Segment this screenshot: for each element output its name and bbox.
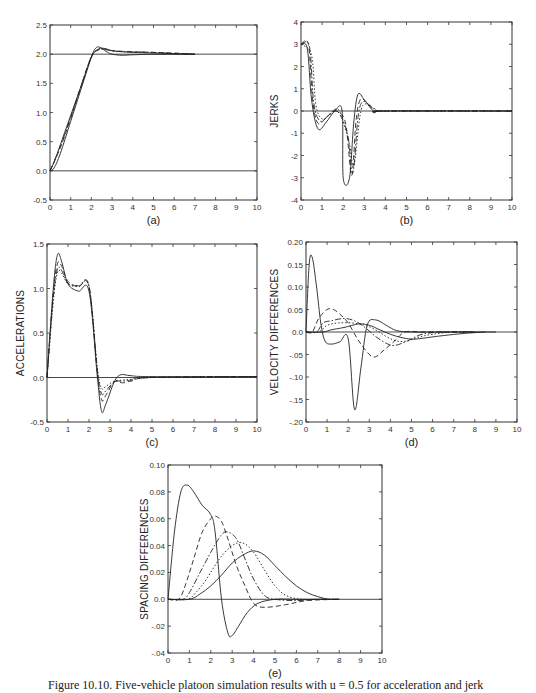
series-line-diff-2 xyxy=(306,309,475,357)
y-tick-label: 2.5 xyxy=(36,21,48,30)
y-axis-label: ACCELERATIONS xyxy=(15,290,26,376)
x-tick-label: 3 xyxy=(108,425,113,434)
y-axis-label: VELOCITY DIFFERENCES xyxy=(269,269,280,396)
x-tick-label: 10 xyxy=(253,425,262,434)
x-tick-label: 2 xyxy=(89,203,94,212)
y-tick-label: 0.05 xyxy=(287,306,303,315)
chart-panel-c: 012345678910-0.50.00.51.01.5ACCELERATION… xyxy=(15,240,262,448)
plot-frame xyxy=(168,465,382,653)
y-tick-label: 1.5 xyxy=(33,240,45,249)
y-tick-label: -.15 xyxy=(289,396,303,405)
x-tick-label: 7 xyxy=(451,425,456,434)
x-tick-label: 6 xyxy=(294,656,299,665)
x-tick-label: 3 xyxy=(362,203,367,212)
series-line-lead xyxy=(301,43,512,185)
y-tick-label: 0.5 xyxy=(36,138,48,147)
chart-panel-b: 012345678910-4-3-2-101234JERKS(b) xyxy=(269,18,517,226)
y-tick-label: 2.0 xyxy=(36,50,48,59)
x-tick-label: 10 xyxy=(253,203,262,212)
chart-panel-a: 012345678910-0.50.00.51.01.52.02.5(a) xyxy=(33,21,262,226)
x-tick-label: 9 xyxy=(234,425,239,434)
x-tick-label: 8 xyxy=(213,425,218,434)
x-tick-label: 8 xyxy=(473,425,478,434)
series-line-follower-2 xyxy=(301,42,512,174)
y-tick-label: 0.10 xyxy=(149,461,165,470)
y-tick-label: 0.20 xyxy=(287,238,303,247)
x-tick-label: 7 xyxy=(193,203,198,212)
series-line-follower-1 xyxy=(301,40,512,175)
x-tick-label: 1 xyxy=(68,203,73,212)
series-line-follower-3 xyxy=(50,49,195,171)
y-tick-label: 4 xyxy=(294,18,299,27)
series-line-diff-5 xyxy=(306,324,485,339)
y-tick-label: 0.10 xyxy=(287,283,303,292)
x-tick-label: 4 xyxy=(129,425,134,434)
x-tick-label: 0 xyxy=(166,656,171,665)
x-tick-label: 7 xyxy=(192,425,197,434)
x-tick-label: 5 xyxy=(273,656,278,665)
series-line-follower-2 xyxy=(47,267,257,395)
plot-frame xyxy=(47,244,257,422)
series-line-diff-3 xyxy=(168,532,339,601)
panel-label: (b) xyxy=(400,214,413,226)
x-tick-label: 5 xyxy=(150,425,155,434)
x-tick-label: 6 xyxy=(425,203,430,212)
x-tick-label: 2 xyxy=(87,425,92,434)
x-tick-label: 6 xyxy=(172,203,177,212)
series-line-diff-1 xyxy=(168,485,339,637)
x-tick-label: 10 xyxy=(513,425,522,434)
y-tick-label: -3 xyxy=(291,174,299,183)
x-tick-label: 2 xyxy=(341,203,346,212)
x-tick-label: 4 xyxy=(251,656,256,665)
y-tick-label: 0.0 xyxy=(292,328,304,337)
x-tick-label: 4 xyxy=(131,203,136,212)
series-line-lead xyxy=(50,47,195,171)
y-tick-label: 1 xyxy=(294,85,299,94)
x-tick-label: 3 xyxy=(230,656,235,665)
y-tick-label: -1 xyxy=(291,129,299,138)
y-tick-label: 0.04 xyxy=(149,542,165,551)
x-tick-label: 4 xyxy=(388,425,393,434)
y-tick-label: 0.0 xyxy=(33,374,45,383)
x-tick-label: 8 xyxy=(337,656,342,665)
x-tick-label: 10 xyxy=(508,203,517,212)
x-tick-label: 8 xyxy=(213,203,218,212)
y-tick-label: 0.5 xyxy=(33,329,45,338)
y-tick-label: -.04 xyxy=(151,649,165,658)
x-tick-label: 2 xyxy=(346,425,351,434)
y-tick-label: 3 xyxy=(294,40,299,49)
series-line-diff-2 xyxy=(168,516,339,607)
x-tick-label: 9 xyxy=(358,656,363,665)
figure-caption: Figure 10.10. Five-vehicle platoon simul… xyxy=(48,678,483,693)
series-line-follower-3 xyxy=(301,44,512,167)
x-tick-label: 3 xyxy=(110,203,115,212)
y-tick-label: 0.0 xyxy=(154,595,166,604)
x-tick-label: 0 xyxy=(45,425,50,434)
y-tick-label: 0.08 xyxy=(149,488,165,497)
y-tick-label: 0.02 xyxy=(149,568,165,577)
series-line-diff-5 xyxy=(168,551,339,600)
series-line-follower-3 xyxy=(47,270,257,389)
x-tick-label: 9 xyxy=(234,203,239,212)
x-tick-label: 1 xyxy=(187,656,192,665)
y-tick-label: -0.5 xyxy=(30,418,44,427)
y-tick-label: -.10 xyxy=(289,373,303,382)
x-tick-label: 5 xyxy=(151,203,156,212)
y-axis-label: JERKS xyxy=(269,94,280,127)
x-tick-label: 9 xyxy=(489,203,494,212)
y-tick-label: -.02 xyxy=(151,622,165,631)
series-line-follower-1 xyxy=(50,48,195,171)
x-tick-label: 5 xyxy=(409,425,414,434)
x-tick-label: 9 xyxy=(494,425,499,434)
panel-label: (d) xyxy=(405,436,418,448)
chart-panel-e: 012345678910-.04-.020.00.020.040.060.080… xyxy=(139,461,387,679)
x-tick-label: 6 xyxy=(430,425,435,434)
x-tick-label: 1 xyxy=(320,203,325,212)
y-tick-label: 2 xyxy=(294,63,299,72)
y-tick-label: 0 xyxy=(294,107,299,116)
x-tick-label: 6 xyxy=(171,425,176,434)
panel-label: (c) xyxy=(146,436,159,448)
y-tick-label: 0.0 xyxy=(36,167,48,176)
y-tick-label: -0.5 xyxy=(33,196,47,205)
